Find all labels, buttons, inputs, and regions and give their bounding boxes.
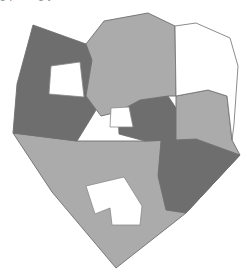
hole-northwest-courtyard (49, 62, 84, 97)
parcel-map-svg (0, 0, 247, 274)
map-canvas: g p f m g y (0, 0, 247, 274)
region-center-notch (110, 107, 133, 127)
